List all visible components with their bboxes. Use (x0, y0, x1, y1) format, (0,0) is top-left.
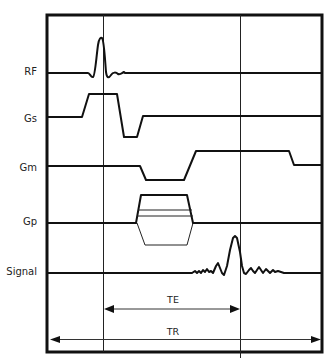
channel-label-gs: Gs (24, 113, 37, 124)
gp-negative-lobe (137, 223, 193, 245)
diagram-frame (47, 15, 322, 352)
signal-waveform (48, 236, 322, 275)
tr-arrow-head-right (311, 336, 321, 343)
channel-label-gm: Gm (20, 162, 38, 173)
channel-label-gp: Gp (23, 216, 37, 227)
channel-label-signal: Signal (6, 266, 37, 277)
gm-waveform (48, 151, 322, 180)
te-arrow-head-left (104, 305, 114, 313)
gp-positive-lobe (136, 195, 193, 223)
pulse-sequence-diagram: RF Gs Gm Gp Signal TE TR (0, 0, 333, 361)
rf-waveform (48, 38, 322, 78)
te-label: TE (166, 294, 179, 305)
tr-arrow-head-left (50, 336, 60, 343)
channel-label-rf: RF (24, 66, 37, 77)
gs-waveform (48, 94, 322, 137)
tr-label: TR (166, 326, 180, 337)
te-arrow-head-right (230, 305, 240, 313)
